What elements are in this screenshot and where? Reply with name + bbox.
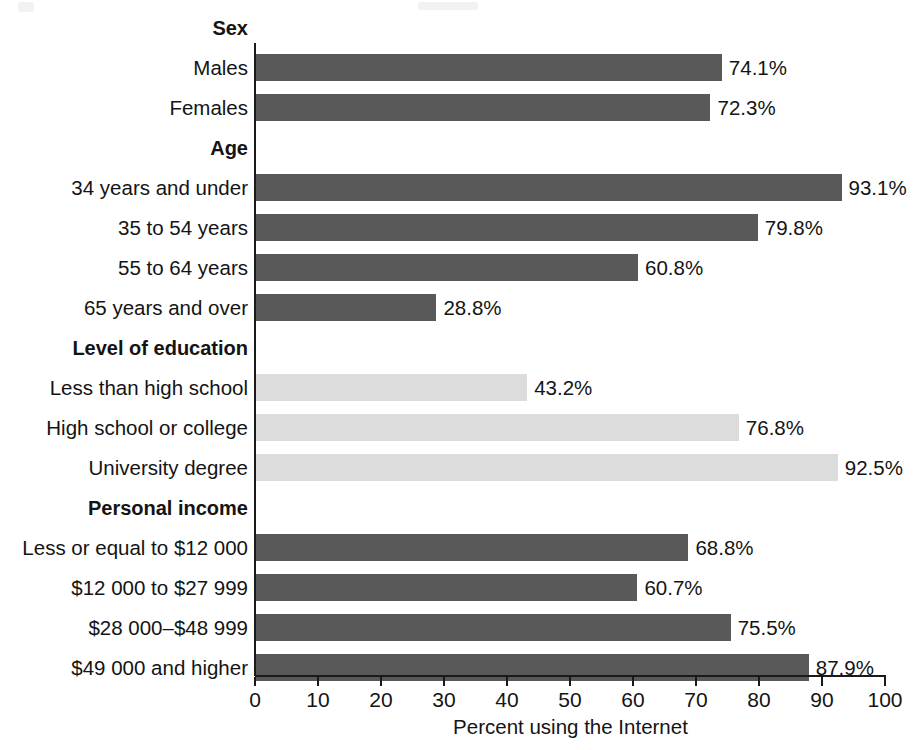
group-heading-label: Personal income: [88, 488, 248, 528]
x-axis-tick-label: 80: [747, 688, 770, 712]
bar-value-label: 93.1%: [849, 168, 907, 208]
group-heading-row: Level of education: [0, 328, 923, 368]
x-axis-tick: [506, 677, 508, 686]
bar: [255, 294, 436, 321]
group-heading-label: Level of education: [72, 328, 248, 368]
group-heading-label: Age: [210, 128, 248, 168]
bar-row: $28 000–$48 99975.5%: [0, 608, 923, 648]
bar: [255, 534, 688, 561]
bar: [255, 214, 758, 241]
bar: [255, 574, 637, 601]
bar-category-label: $28 000–$48 999: [88, 608, 248, 648]
x-axis-tick-label: 40: [495, 688, 518, 712]
group-heading-row: Personal income: [0, 488, 923, 528]
x-axis-tick: [317, 677, 319, 686]
x-axis-tick-label: 60: [621, 688, 644, 712]
group-heading-row: Sex: [0, 8, 923, 48]
x-axis-tick-label: 90: [810, 688, 833, 712]
bar-category-label: 55 to 64 years: [118, 248, 248, 288]
bar-category-label: 34 years and under: [71, 168, 248, 208]
bar-value-label: 74.1%: [729, 48, 787, 88]
bar-value-label: 76.8%: [746, 408, 804, 448]
x-axis-tick: [758, 677, 760, 686]
bar-category-label: Females: [169, 88, 248, 128]
bar-category-label: Less or equal to $12 000: [22, 528, 248, 568]
bar-category-label: $49 000 and higher: [71, 648, 248, 688]
bar-row: $12 000 to $27 99960.7%: [0, 568, 923, 608]
x-axis-tick-label: 70: [684, 688, 707, 712]
x-axis-title: Percent using the Internet: [255, 715, 886, 739]
bar-value-label: 28.8%: [443, 288, 501, 328]
bar-row: $49 000 and higher87.9%: [0, 648, 923, 688]
bar: [255, 454, 838, 481]
bar: [255, 174, 842, 201]
bar-category-label: 35 to 54 years: [118, 208, 248, 248]
bar: [255, 614, 731, 641]
bar-row: 34 years and under93.1%: [0, 168, 923, 208]
bar: [255, 54, 722, 81]
bar-category-label: 65 years and over: [84, 288, 248, 328]
bar-row: 55 to 64 years60.8%: [0, 248, 923, 288]
x-axis-tick-label: 100: [867, 688, 902, 712]
group-heading-row: Age: [0, 128, 923, 168]
bar-category-label: Males: [193, 48, 248, 88]
bar-value-label: 60.7%: [644, 568, 702, 608]
bar-value-label: 75.5%: [738, 608, 796, 648]
x-axis-tick: [821, 677, 823, 686]
bar-row: University degree92.5%: [0, 448, 923, 488]
x-axis-tick: [443, 677, 445, 686]
bar-row: High school or college76.8%: [0, 408, 923, 448]
bar-category-label: University degree: [88, 448, 248, 488]
x-axis-tick: [695, 677, 697, 686]
bar-value-label: 68.8%: [695, 528, 753, 568]
bar-value-label: 43.2%: [534, 368, 592, 408]
bar-row: Less or equal to $12 00068.8%: [0, 528, 923, 568]
x-axis-tick-label: 10: [306, 688, 329, 712]
bar-row: Females72.3%: [0, 88, 923, 128]
x-axis-tick-label: 30: [432, 688, 455, 712]
bar-row: 65 years and over28.8%: [0, 288, 923, 328]
bar: [255, 414, 739, 441]
group-heading-label: Sex: [212, 8, 248, 48]
x-axis-tick: [380, 677, 382, 686]
x-axis-tick-label: 20: [369, 688, 392, 712]
bar-category-label: Less than high school: [50, 368, 248, 408]
bar: [255, 254, 638, 281]
bar-row: Males74.1%: [0, 48, 923, 88]
x-axis-tick-label: 0: [249, 688, 261, 712]
bar-value-label: 87.9%: [816, 648, 874, 688]
bar-value-label: 92.5%: [845, 448, 903, 488]
x-axis-tick: [884, 677, 886, 686]
y-axis-line: [254, 43, 256, 676]
bar: [255, 374, 527, 401]
x-axis-tick: [632, 677, 634, 686]
bar-row: Less than high school43.2%: [0, 368, 923, 408]
bar-value-label: 79.8%: [765, 208, 823, 248]
x-axis-tick-label: 50: [558, 688, 581, 712]
bar: [255, 94, 710, 121]
horizontal-bar-chart: SexMales74.1%Females72.3%Age34 years and…: [0, 0, 923, 750]
bar-value-label: 60.8%: [645, 248, 703, 288]
x-axis-tick: [569, 677, 571, 686]
bar-row: 35 to 54 years79.8%: [0, 208, 923, 248]
x-axis-tick: [254, 677, 256, 686]
bar-category-label: $12 000 to $27 999: [71, 568, 248, 608]
bar-value-label: 72.3%: [717, 88, 775, 128]
bar-category-label: High school or college: [46, 408, 248, 448]
